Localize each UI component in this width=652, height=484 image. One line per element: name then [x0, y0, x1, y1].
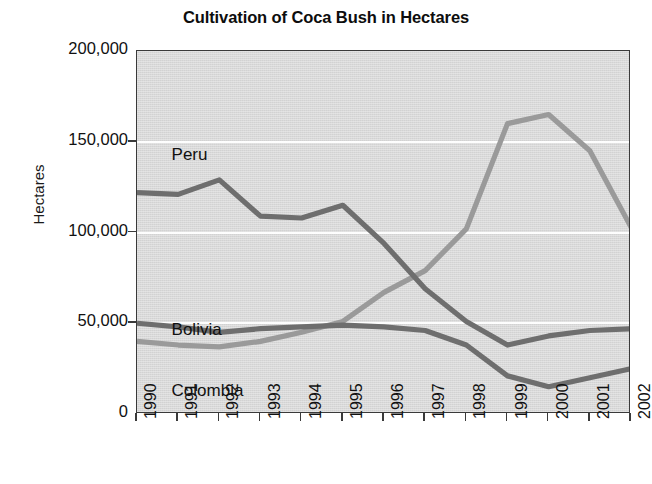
y-tick-label: 200,000 [10, 39, 128, 58]
y-tick-label: 50,000 [10, 311, 128, 330]
series-label-bolivia: Bolivia [172, 320, 222, 340]
y-tick-label: 100,000 [10, 221, 128, 240]
y-tick-label: 0 [10, 402, 128, 421]
x-tick-label: 1993 [266, 383, 284, 419]
chart-title: Cultivation of Coca Bush in Hectares [0, 8, 652, 27]
x-tick-label: 1996 [389, 383, 407, 419]
x-tick-label: 1997 [430, 383, 448, 419]
plot-area: PeruBoliviaColombia [136, 50, 630, 413]
series-label-peru: Peru [172, 145, 208, 165]
x-tick-mark [465, 413, 467, 421]
x-tick-label: 1994 [307, 383, 325, 419]
x-tick-label: 1995 [348, 383, 366, 419]
x-tick-mark [423, 413, 425, 421]
x-tick-mark [506, 413, 508, 421]
y-tick-label: 150,000 [10, 130, 128, 149]
x-tick-mark [547, 413, 549, 421]
chart-figure: Cultivation of Coca Bush in Hectares Hec… [0, 0, 652, 484]
x-tick-mark [629, 413, 631, 421]
x-tick-label: 2002 [636, 383, 652, 419]
x-tick-mark [341, 413, 343, 421]
series-lines [137, 51, 630, 413]
x-tick-mark [135, 413, 137, 421]
x-tick-mark [300, 413, 302, 421]
x-tick-label: 1998 [471, 383, 489, 419]
x-tick-mark [176, 413, 178, 421]
series-line-colombia [137, 115, 630, 347]
x-tick-label: 1992 [224, 383, 242, 419]
x-tick-label: 2000 [554, 383, 572, 419]
x-tick-mark [259, 413, 261, 421]
x-tick-mark [588, 413, 590, 421]
x-tick-label: 2001 [595, 383, 613, 419]
x-tick-label: 1999 [513, 383, 531, 419]
x-tick-label: 1990 [142, 383, 160, 419]
x-tick-mark [382, 413, 384, 421]
x-tick-mark [218, 413, 220, 421]
x-tick-label: 1991 [183, 383, 201, 419]
